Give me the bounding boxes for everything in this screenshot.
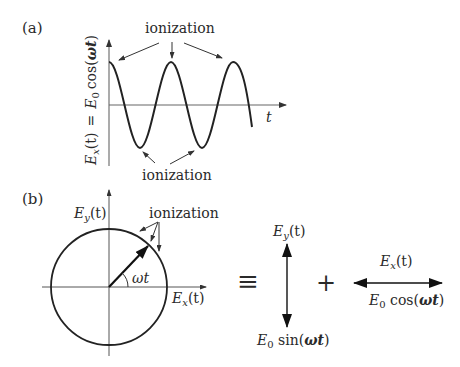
horizontal-bottom-label: E0 cos(ωt) xyxy=(368,292,444,310)
plus-symbol: + xyxy=(316,269,336,297)
figure: (a) Ex(t)=E0cos(ωt) t ionization ionizat… xyxy=(0,0,460,367)
ionization-arrow-5 xyxy=(170,151,194,164)
panel-a-label: (a) xyxy=(22,19,43,37)
horizontal-top-label: Ex(t) xyxy=(379,253,412,271)
b-x-axis-label: Ex(t) xyxy=(171,290,204,308)
vertical-bottom-label: E0 sin(ωt) xyxy=(256,332,329,350)
ionization-arrow-4 xyxy=(143,152,155,163)
angle-arc xyxy=(122,273,128,287)
y-axis-label: Ex(t)=E0cos(ωt) xyxy=(83,35,101,166)
panel-a: (a) Ex(t)=E0cos(ωt) t ionization ionizat… xyxy=(22,19,286,183)
horizontal-component: Ex(t) E0 cos(ωt) xyxy=(354,253,444,310)
ionization-arrow-3 xyxy=(184,43,222,58)
top-ionization-label: ionization xyxy=(145,20,215,36)
t-axis-label: t xyxy=(266,109,272,125)
b-y-axis-label: Ey(t) xyxy=(73,205,106,223)
equivalence-symbol: ≡ xyxy=(237,266,259,296)
b-ionization-label: ionization xyxy=(149,205,219,221)
angle-label: ωt xyxy=(132,270,149,286)
vertical-top-label: Ey(t) xyxy=(272,223,305,241)
panel-b-label: (b) xyxy=(22,190,43,208)
ionization-arrow-1 xyxy=(119,43,159,60)
bottom-ionization-label: ionization xyxy=(142,167,212,183)
panel-b: (b) ωt Ey(t) Ex(t) ionization ≡ Ey xyxy=(22,190,444,356)
